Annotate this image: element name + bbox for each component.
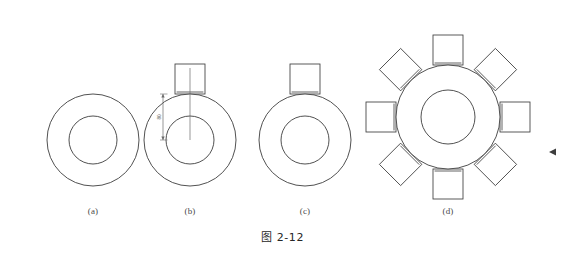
subfigure-label: (c) <box>285 206 325 216</box>
radial-square <box>500 102 530 132</box>
subfigure-b: 80 <box>144 64 236 186</box>
radial-square <box>433 169 463 199</box>
subfigure-a <box>47 94 139 186</box>
dimension-arrow-top <box>161 94 164 97</box>
left-pointing-triangle-icon <box>549 149 556 156</box>
radial-square <box>433 35 463 65</box>
square-outline <box>366 102 396 132</box>
square-outline <box>500 102 530 132</box>
square-outline <box>433 35 463 65</box>
technical-figure-canvas: 80 <box>0 0 565 262</box>
dimension-value-label: 80 <box>156 114 162 120</box>
inner-circle <box>69 116 117 164</box>
inner-circle <box>421 90 475 144</box>
subfigure-d <box>366 35 530 199</box>
radial-square <box>366 102 396 132</box>
figure-caption: 图 2-12 <box>0 228 565 244</box>
square-outline <box>290 64 320 94</box>
inner-circle <box>281 116 329 164</box>
subfigure-label: (b) <box>170 206 210 216</box>
radial-square <box>290 64 320 94</box>
subfigure-label: (a) <box>73 206 113 216</box>
subfigure-label: (d) <box>428 206 468 216</box>
subfigure-c <box>259 64 351 186</box>
square-outline <box>433 169 463 199</box>
